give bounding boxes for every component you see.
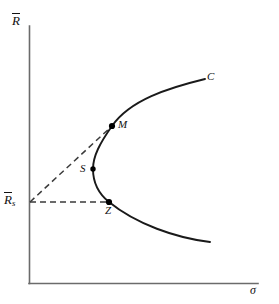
point-marker-m	[109, 123, 115, 129]
rs-subscript-text: s	[12, 198, 15, 208]
curve-group	[93, 79, 210, 242]
point-label-m: M	[118, 119, 127, 130]
overbar-rule	[4, 192, 12, 193]
y-axis-label: R	[12, 14, 20, 27]
overbar-rule	[12, 13, 20, 14]
figure-canvas	[0, 0, 279, 304]
axes-group	[29, 26, 258, 284]
curve-label-c: C	[207, 71, 214, 82]
figure-container: R σ R s M S Z C	[0, 0, 279, 304]
y-axis-label-text: R	[12, 13, 20, 28]
rs-overbar-wrap: R	[4, 193, 12, 206]
curve-c	[93, 79, 210, 242]
point-marker-s	[90, 166, 95, 171]
x-axis-label-text: σ	[250, 283, 256, 297]
x-axis-label: σ	[250, 284, 256, 296]
point-label-z: Z	[105, 205, 111, 216]
point-label-s: S	[80, 163, 86, 174]
y-axis-label-overbar-wrap: R	[12, 14, 20, 27]
rs-base-text: R	[4, 192, 12, 207]
y-axis-tick-label-rs: R s	[4, 193, 15, 208]
